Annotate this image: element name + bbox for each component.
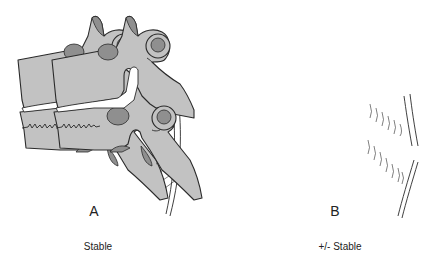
panel-b-label: B xyxy=(330,203,339,219)
panel-b-caption: +/- Stable xyxy=(318,241,361,252)
spine-diagram xyxy=(0,0,440,267)
panel-a-caption: Stable xyxy=(84,241,112,252)
panel-a-label: A xyxy=(89,203,98,219)
torn-ligament-b xyxy=(368,94,418,218)
